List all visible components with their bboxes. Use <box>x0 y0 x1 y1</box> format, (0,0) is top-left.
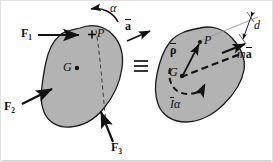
point-P-marker-right <box>198 40 202 44</box>
figure-root: F1 F2 F3 α P G a ρ P G Iα ma d <box>0 0 273 162</box>
label-G-left: G <box>63 61 72 73</box>
distance-d-dimension <box>239 12 254 44</box>
figure-graphics <box>0 0 273 162</box>
label-inertia-couple: Iα <box>170 98 180 110</box>
label-acceleration-vector: a <box>125 20 131 32</box>
label-F3: F3 <box>111 141 122 156</box>
equivalence-sign-strokes <box>134 61 148 71</box>
label-alpha-left: α <box>110 2 116 14</box>
label-resultant-ma: ma <box>237 48 252 60</box>
label-F2: F2 <box>4 100 15 115</box>
label-F1: F1 <box>21 27 32 42</box>
force-arrow-F3 <box>101 112 113 142</box>
label-G-right: G <box>169 66 178 78</box>
left-body-shape <box>41 26 122 128</box>
centroid-G-marker-left <box>75 66 79 70</box>
label-distance-d: d <box>254 19 260 31</box>
label-P-right: P <box>204 34 211 46</box>
label-rho-bar: ρ <box>170 44 176 56</box>
label-P-left: P <box>97 27 104 39</box>
